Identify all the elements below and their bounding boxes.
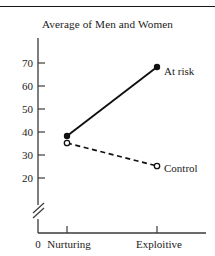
y-tick-label-50: 50 [10, 103, 33, 115]
series-marker-at-risk-exploitive [154, 64, 160, 70]
series-marker-at-risk-nurturing [64, 133, 70, 139]
series-label-control: Control [164, 162, 198, 174]
y-tick-label-40: 40 [10, 126, 33, 138]
y-tick-label-70: 70 [10, 57, 33, 69]
y-tick-label-60: 60 [10, 80, 33, 92]
y-tick-label-20: 20 [10, 172, 33, 184]
x-axis-origin-label: 0 [35, 238, 41, 250]
series-line-control [67, 143, 157, 166]
chart-figure: Average of Men and Women 70 60 50 40 [0, 0, 215, 256]
y-tick-label-30: 30 [10, 149, 33, 161]
x-tick-label-nurturing: Nurturing [47, 238, 90, 250]
series-marker-control-exploitive [154, 163, 159, 168]
series-line-at-risk [67, 67, 157, 136]
axis-break-mark-lower [33, 208, 44, 218]
series-marker-control-nurturing [64, 140, 69, 145]
x-tick-label-exploitive: Exploitive [136, 238, 182, 250]
series-label-at-risk: At risk [164, 65, 194, 77]
